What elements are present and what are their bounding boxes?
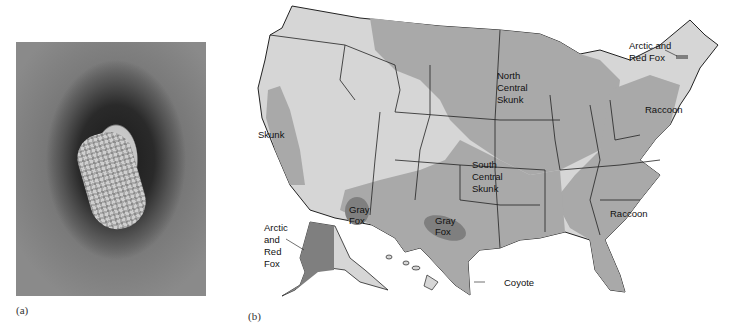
label-north-central-2: Central — [497, 82, 528, 93]
arctic-red-fox-ne-region — [676, 55, 688, 59]
virus-micrograph — [16, 42, 206, 296]
caption-b: (b) — [248, 310, 261, 322]
label-raccoon-ne: Raccoon — [645, 104, 683, 115]
label-arctic-red-fox-ak-2: and — [264, 234, 280, 245]
label-arctic-red-fox-ak-4: Fox — [264, 258, 280, 269]
label-south-central-1: South — [472, 159, 497, 170]
label-gray-fox-az-2: Fox — [349, 215, 365, 226]
label-arctic-red-fox-ne-2: Red Fox — [629, 52, 665, 63]
alaska — [282, 222, 388, 296]
label-arctic-red-fox-ak-3: Red — [264, 246, 281, 257]
label-south-central-2: Central — [472, 171, 503, 182]
label-gray-fox-tx-1: Gray — [435, 215, 456, 226]
label-gray-fox-az-1: Gray — [349, 204, 370, 215]
us-rabies-map: Arctic and Red Fox North Central Skunk R… — [255, 0, 744, 331]
label-skunk-ca: Skunk — [258, 129, 285, 140]
virus-particle — [72, 126, 153, 236]
caption-a: (a) — [16, 304, 28, 316]
label-coyote: Coyote — [504, 277, 534, 288]
hawaii — [386, 255, 438, 290]
label-north-central-1: North — [497, 70, 520, 81]
label-arctic-red-fox-ak-1: Arctic — [264, 222, 288, 233]
label-south-central-3: Skunk — [472, 183, 499, 194]
label-north-central-3: Skunk — [497, 94, 524, 105]
label-gray-fox-tx-2: Fox — [435, 226, 451, 237]
arctic-red-fox-ak-region — [282, 222, 334, 296]
label-arctic-red-fox-ne-1: Arctic and — [629, 40, 671, 51]
label-raccoon-se: Raccoon — [610, 208, 648, 219]
